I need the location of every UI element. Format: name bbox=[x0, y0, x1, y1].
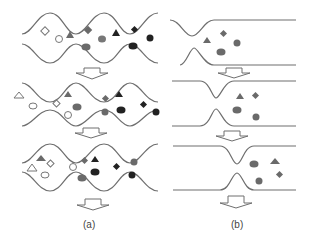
gray-circle-shape bbox=[234, 40, 241, 47]
panel-a-stage-1 bbox=[22, 13, 158, 63]
gray-circle-shape bbox=[256, 178, 263, 185]
down-arrow-icon bbox=[75, 128, 107, 138]
channel-wall-bottom bbox=[180, 48, 296, 65]
dark-hexagon-shape bbox=[129, 43, 138, 50]
gray-triangle-shape bbox=[236, 93, 244, 99]
open-triangle-shape bbox=[14, 92, 24, 98]
gray-triangle-shape bbox=[64, 91, 72, 97]
open-hexagon-shape bbox=[29, 103, 37, 109]
gray-hexagon-shape bbox=[98, 36, 106, 43]
panel-a: (a) bbox=[14, 13, 160, 230]
gray-circle-shape bbox=[102, 109, 109, 116]
gray-triangle-shape bbox=[203, 37, 211, 43]
gray-diamond-shape bbox=[81, 157, 88, 164]
down-arrow-icon bbox=[77, 199, 109, 210]
dark-circle-shape bbox=[147, 35, 154, 42]
panel-b: (b) bbox=[170, 20, 296, 230]
dark-diamond-shape bbox=[140, 101, 147, 108]
open-triangle-shape bbox=[27, 164, 37, 171]
dark-circle-shape bbox=[153, 109, 160, 116]
gray-diamond-shape bbox=[84, 26, 92, 34]
open-circle-shape bbox=[56, 36, 63, 43]
dark-circle-shape bbox=[129, 172, 136, 179]
channel-wall-top bbox=[172, 81, 296, 98]
dark-diamond-shape bbox=[113, 163, 120, 170]
gray-circle-shape bbox=[253, 114, 260, 121]
panel-a-label: (a) bbox=[83, 219, 95, 230]
dark-triangle-shape bbox=[91, 156, 99, 162]
panel-a-stage-2 bbox=[14, 83, 160, 126]
dark-diamond-shape bbox=[131, 26, 138, 33]
down-arrow-icon bbox=[220, 196, 252, 208]
gray-diamond-shape bbox=[252, 92, 259, 99]
diagram-canvas: (a) bbox=[0, 0, 309, 241]
panel-b-stage-2 bbox=[172, 81, 296, 126]
panel-b-stage-1 bbox=[170, 20, 296, 65]
gray-hexagon-shape bbox=[217, 49, 226, 56]
channel-wall-top bbox=[22, 83, 158, 102]
open-diamond-shape bbox=[47, 160, 54, 167]
gray-hexagon-shape bbox=[82, 44, 91, 51]
down-arrow-icon bbox=[76, 68, 108, 79]
dark-hexagon-shape bbox=[91, 169, 100, 176]
panel-a-stage-3 bbox=[22, 144, 158, 191]
down-arrow-icon bbox=[216, 131, 248, 141]
open-circle-shape bbox=[70, 164, 77, 171]
gray-hexagon-shape bbox=[250, 161, 259, 168]
open-diamond-shape bbox=[41, 27, 49, 35]
gray-triangle-shape bbox=[270, 158, 280, 164]
gray-triangle-shape bbox=[66, 31, 74, 38]
gray-diamond-shape bbox=[276, 171, 283, 178]
gray-hexagon-shape bbox=[73, 104, 82, 111]
panel-b-label: (b) bbox=[231, 219, 243, 230]
channel-wall-top bbox=[170, 20, 296, 36]
dark-triangle-shape bbox=[112, 29, 120, 36]
dark-hexagon-shape bbox=[117, 107, 126, 114]
gray-diamond-shape bbox=[220, 30, 227, 37]
open-circle-shape bbox=[65, 112, 72, 119]
gray-circle-shape bbox=[131, 159, 138, 166]
down-arrow-icon bbox=[218, 68, 250, 78]
gray-hexagon-shape bbox=[233, 107, 242, 114]
gray-hexagon-shape bbox=[78, 175, 87, 182]
panel-b-stage-3 bbox=[173, 146, 296, 190]
open-hexagon-shape bbox=[41, 172, 49, 178]
channel-wall-bottom bbox=[22, 110, 158, 126]
gray-triangle-shape bbox=[36, 155, 46, 161]
